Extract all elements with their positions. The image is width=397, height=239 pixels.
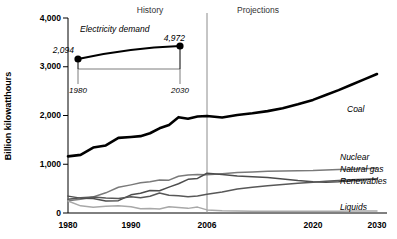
series-line-coal xyxy=(68,74,377,156)
series-label-coal: Coal xyxy=(347,104,366,114)
inset-year-1980: 1980 xyxy=(69,86,87,95)
y-tick-0: 0 xyxy=(56,208,61,218)
history-label: History xyxy=(137,5,164,15)
x-tick-1990: 1990 xyxy=(122,220,141,230)
inset-point-1980 xyxy=(74,55,81,62)
x-tick-2020: 2020 xyxy=(304,220,323,230)
series-label-natural-gas: Natural gas xyxy=(340,164,384,174)
series-label-liquids: Liquids xyxy=(340,202,368,212)
y-tick-3000: 3,000 xyxy=(40,61,62,71)
figure-container: Billion kilowatthours 4,000 3,000 2,000 … xyxy=(0,0,397,239)
series-line-nuclear xyxy=(68,168,377,201)
series-line-natural-gas xyxy=(68,173,377,201)
inset-end-value: 4,972 xyxy=(164,33,186,43)
x-tick-2030: 2030 xyxy=(368,220,387,230)
y-axis-title: Billion kilowatthours xyxy=(3,72,13,161)
inset-year-2030: 2030 xyxy=(170,86,189,95)
electricity-generation-chart: Billion kilowatthours 4,000 3,000 2,000 … xyxy=(0,0,397,239)
series-label-renewables: Renewables xyxy=(340,176,388,186)
inset-point-2030 xyxy=(176,42,183,49)
projections-label: Projections xyxy=(237,5,279,15)
series-lines-layer xyxy=(68,74,377,211)
y-tick-2000: 2,000 xyxy=(40,110,62,120)
axis-lines xyxy=(63,18,387,213)
x-tick-labels: 1980 1990 2006 2020 2030 xyxy=(59,220,387,230)
x-tick-2006: 2006 xyxy=(198,220,217,230)
inset-start-value: 2,094 xyxy=(52,45,75,55)
inset-electricity-demand: Electricity demand 2,094 4,972 1980 2030 xyxy=(52,24,190,95)
inset-title: Electricity demand xyxy=(80,24,150,34)
inset-frame xyxy=(78,69,180,84)
series-line-liquids xyxy=(68,201,377,211)
inset-demand-line xyxy=(78,46,180,59)
series-labels: Coal Nuclear Natural gas Renewables Liqu… xyxy=(340,104,388,212)
y-tick-4000: 4,000 xyxy=(40,13,62,23)
x-tick-1980: 1980 xyxy=(59,220,78,230)
y-tick-1000: 1,000 xyxy=(40,159,62,169)
series-label-nuclear: Nuclear xyxy=(340,152,370,162)
y-tick-labels: 4,000 3,000 2,000 1,000 0 xyxy=(40,13,62,218)
